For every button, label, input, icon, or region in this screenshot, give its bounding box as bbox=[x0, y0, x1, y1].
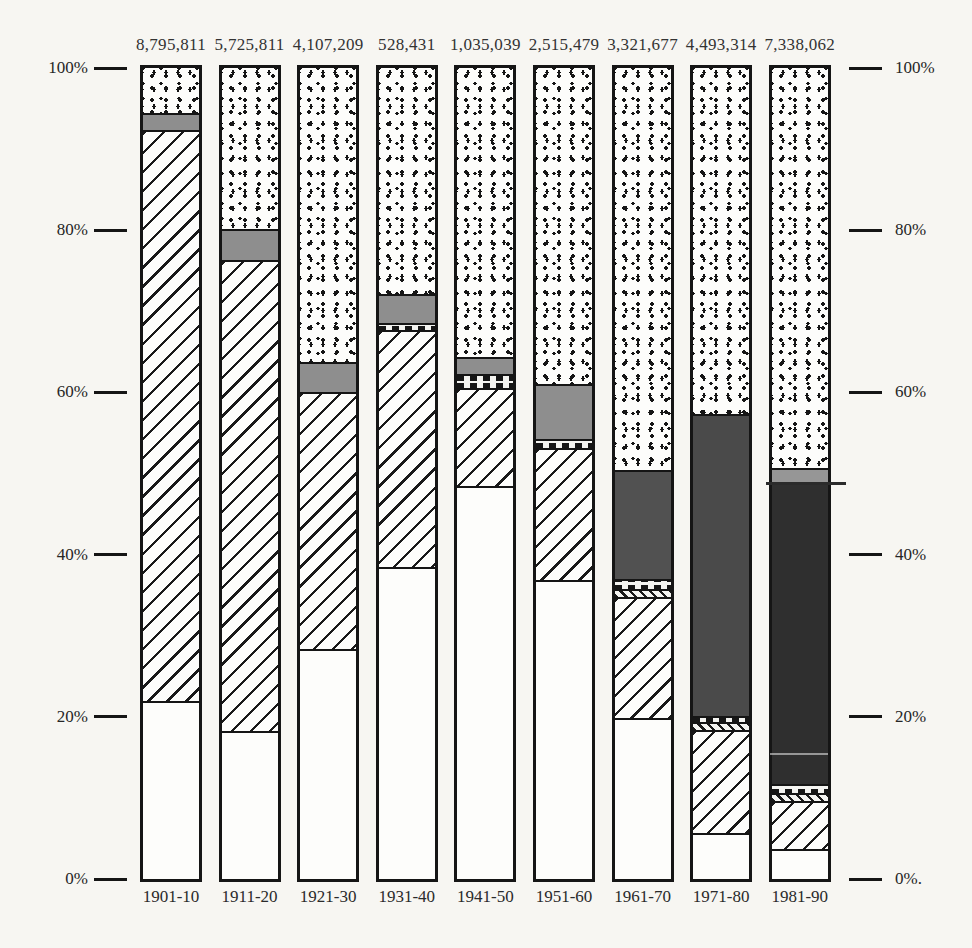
bar-segment-plain bbox=[457, 486, 513, 879]
bar-segment-dark bbox=[693, 414, 749, 716]
stacked-bar-1951-60 bbox=[533, 65, 595, 882]
bar-segment-dotted bbox=[536, 68, 592, 384]
bar-total-label: 7,338,062 bbox=[745, 36, 855, 54]
bar-segment-plain bbox=[222, 731, 278, 879]
y-axis-label-left: 40% bbox=[26, 546, 88, 564]
y-tick-left bbox=[94, 878, 127, 881]
bar-segment-hatch bbox=[615, 597, 671, 718]
bar-segment-gray bbox=[457, 357, 513, 374]
y-axis-label-left: 100% bbox=[26, 59, 88, 77]
y-axis-label-left: 80% bbox=[26, 221, 88, 239]
y-tick-left bbox=[94, 553, 127, 556]
y-tick-right bbox=[849, 391, 882, 394]
bar-segment-hatch bbox=[300, 392, 356, 648]
y-tick-right bbox=[849, 715, 882, 718]
bar-segment-stripe bbox=[457, 374, 513, 388]
bar-segment-hatch bbox=[536, 448, 592, 579]
bar-segment-hatch bbox=[379, 330, 435, 567]
stacked-bar-1961-70 bbox=[612, 65, 674, 882]
bar-segment-diag bbox=[772, 793, 828, 801]
bar-segment-stripe bbox=[693, 716, 749, 722]
y-axis-label-left: 0% bbox=[26, 870, 88, 888]
bar-segment-plain bbox=[143, 701, 199, 879]
y-axis-label-right: 0%. bbox=[895, 870, 922, 888]
bar-segment-hatch bbox=[222, 260, 278, 730]
plot: 100%100%80%80%60%60%40%40%20%20%0%0%.8,7… bbox=[0, 0, 972, 948]
stacked-bar-1971-80 bbox=[690, 65, 752, 882]
bar-segment-dotted bbox=[615, 68, 671, 470]
y-tick-left bbox=[94, 391, 127, 394]
y-tick-left bbox=[94, 229, 127, 232]
bar-segment-hatch bbox=[457, 388, 513, 486]
bar-segment-stripe bbox=[536, 439, 592, 448]
bar-segment-diag bbox=[615, 589, 671, 597]
bar-segment-gray bbox=[222, 229, 278, 261]
y-axis-label-right: 40% bbox=[895, 546, 926, 564]
bar-segment-dark bbox=[615, 470, 671, 579]
x-axis-label: 1981-90 bbox=[745, 888, 855, 906]
scanned-chart-page: 100%100%80%80%60%60%40%40%20%20%0%0%.8,7… bbox=[0, 0, 972, 948]
bar-segment-stripe bbox=[615, 579, 671, 589]
bar-segment-hatch bbox=[143, 130, 199, 700]
y-tick-left bbox=[94, 67, 127, 70]
bar-segment-dotted bbox=[457, 68, 513, 357]
bar-segment-stripe bbox=[772, 784, 828, 793]
y-axis-label-right: 20% bbox=[895, 708, 926, 726]
y-axis-label-left: 20% bbox=[26, 708, 88, 726]
y-axis-label-right: 100% bbox=[895, 59, 935, 77]
y-axis-label-right: 60% bbox=[895, 383, 926, 401]
y-tick-right bbox=[849, 878, 882, 881]
scan-artifact-dark-line bbox=[766, 482, 846, 485]
bar-segment-hatch bbox=[772, 801, 828, 849]
bar-segment-diag bbox=[693, 722, 749, 729]
bar-segment-hatch bbox=[693, 730, 749, 833]
bar-segment-plain bbox=[693, 833, 749, 879]
y-axis-label-left: 60% bbox=[26, 383, 88, 401]
y-tick-right bbox=[849, 229, 882, 232]
bar-segment-gray bbox=[143, 113, 199, 130]
stacked-bar-1931-40 bbox=[376, 65, 438, 882]
bar-segment-plain bbox=[772, 849, 828, 879]
bar-segment-dotted bbox=[772, 68, 828, 468]
stacked-bar-1921-30 bbox=[297, 65, 359, 882]
bar-segment-gray bbox=[300, 362, 356, 393]
scan-artifact-light-line bbox=[770, 753, 828, 755]
bar-segment-dark bbox=[772, 483, 828, 784]
bar-segment-stripe bbox=[379, 323, 435, 330]
bar-segment-plain bbox=[536, 580, 592, 879]
bar-segment-plain bbox=[379, 567, 435, 879]
bar-segment-dotted bbox=[693, 68, 749, 414]
stacked-bar-1911-20 bbox=[219, 65, 281, 882]
bar-segment-dotted bbox=[143, 68, 199, 113]
bar-segment-plain bbox=[615, 718, 671, 879]
bar-segment-gray bbox=[536, 384, 592, 439]
y-axis-label-right: 80% bbox=[895, 221, 926, 239]
stacked-bar-1901-10 bbox=[140, 65, 202, 882]
bar-segment-dotted bbox=[379, 68, 435, 294]
bar-segment-dotted bbox=[222, 68, 278, 229]
bar-segment-dotted bbox=[300, 68, 356, 362]
y-tick-right bbox=[849, 67, 882, 70]
bar-segment-gray bbox=[772, 468, 828, 483]
bar-segment-gray bbox=[379, 294, 435, 322]
stacked-bar-1981-90 bbox=[769, 65, 831, 882]
y-tick-left bbox=[94, 715, 127, 718]
stacked-bar-1941-50 bbox=[454, 65, 516, 882]
bar-segment-plain bbox=[300, 649, 356, 879]
y-tick-right bbox=[849, 553, 882, 556]
